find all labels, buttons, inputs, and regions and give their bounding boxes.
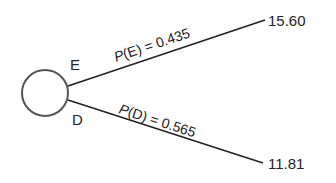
branch-line-d <box>68 100 263 163</box>
chance-node-circle <box>22 70 68 116</box>
branch-label-d: D <box>72 111 83 128</box>
decision-tree-diagram: E P(E) = 0.435 15.60 D P(D) = 0.565 11.8… <box>0 0 336 183</box>
branch-line-e <box>68 20 265 86</box>
payoff-d: 11.81 <box>268 155 304 172</box>
branch-label-e: E <box>70 56 80 73</box>
probability-label-e: P(E) = 0.435 <box>112 25 192 65</box>
payoff-e: 15.60 <box>268 12 306 29</box>
